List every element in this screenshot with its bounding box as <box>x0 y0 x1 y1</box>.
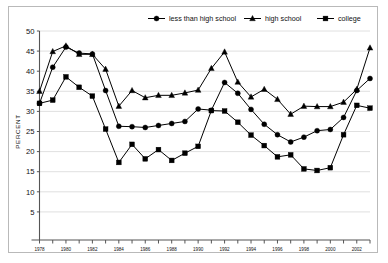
x-axis-tick-label: 1980 <box>61 247 72 252</box>
data-point-circle <box>262 122 267 127</box>
data-point-square <box>183 151 188 156</box>
data-point-triangle <box>261 86 267 91</box>
data-point-circle <box>103 88 108 93</box>
data-point-triangle <box>195 87 201 92</box>
legend-label: high school <box>265 14 302 23</box>
legend-item-less-than-high-school[interactable]: less than high school <box>148 14 237 23</box>
data-point-circle <box>196 106 201 111</box>
legend: less than high schoolhigh schoolcollege <box>148 14 361 23</box>
data-point-circle <box>301 135 306 140</box>
data-point-square <box>156 147 161 152</box>
y-axis-tick-label: 10 <box>26 188 34 197</box>
data-point-circle <box>169 121 174 126</box>
data-point-triangle <box>275 96 281 101</box>
data-point-square <box>103 127 108 132</box>
data-point-square <box>302 166 307 171</box>
x-axis-tick-label: 1990 <box>193 247 204 252</box>
data-point-circle <box>222 80 227 85</box>
data-point-square <box>328 165 333 170</box>
series-line <box>40 46 371 114</box>
data-point-circle <box>154 16 159 21</box>
data-point-square <box>37 101 42 106</box>
data-point-circle <box>156 123 161 128</box>
y-axis-tick-label: 25 <box>26 127 34 136</box>
y-axis-tick-label: 5 <box>30 208 34 217</box>
line-chart: 5101520253035404550PERCENT19781980198219… <box>0 0 388 263</box>
series-group <box>37 43 373 173</box>
legend-label: less than high school <box>169 14 237 23</box>
y-axis: 5101520253035404550 <box>26 27 39 240</box>
data-point-square <box>90 94 95 99</box>
data-point-square <box>50 98 55 103</box>
chart-figure: 5101520253035404550PERCENT19781980198219… <box>0 0 388 263</box>
data-point-circle <box>116 124 121 129</box>
data-point-circle <box>249 107 254 112</box>
data-point-square <box>143 156 148 161</box>
data-point-circle <box>315 128 320 133</box>
data-point-square <box>249 133 254 138</box>
x-axis-tick-label: 1988 <box>167 247 178 252</box>
data-point-circle <box>235 91 240 96</box>
x-axis-tick-label: 1986 <box>140 247 151 252</box>
data-point-square <box>116 160 121 165</box>
x-axis-tick-label: 2002 <box>352 247 363 252</box>
data-point-square <box>368 106 373 111</box>
data-point-circle <box>275 132 280 137</box>
x-axis-tick-label: 1998 <box>299 247 310 252</box>
x-axis-tick-label: 1996 <box>272 247 283 252</box>
legend-label: college <box>338 14 361 23</box>
y-axis-tick-label: 15 <box>26 167 34 176</box>
data-point-square <box>262 143 267 148</box>
gridlines <box>40 31 371 212</box>
x-axis-tick-label: 1982 <box>87 247 98 252</box>
data-point-circle <box>50 65 55 70</box>
y-axis-tick-label: 40 <box>26 67 34 76</box>
data-point-circle <box>130 124 135 129</box>
x-axis: 1978198019821984198619881990199219941996… <box>32 240 371 252</box>
legend-item-high-school[interactable]: high school <box>244 14 302 23</box>
data-point-square <box>209 108 214 113</box>
data-point-circle <box>368 76 373 81</box>
x-axis-tick-label: 1992 <box>219 247 230 252</box>
data-point-triangle <box>235 79 241 84</box>
y-axis-tick-label: 30 <box>26 107 34 116</box>
data-point-square <box>222 109 227 114</box>
series-line <box>40 77 371 171</box>
data-point-circle <box>182 119 187 124</box>
data-point-square <box>130 142 135 147</box>
data-point-square <box>77 85 82 90</box>
data-point-square <box>288 152 293 157</box>
data-point-square <box>235 120 240 125</box>
series-college <box>37 74 372 172</box>
y-axis-tick-label: 20 <box>26 147 34 156</box>
y-axis-tick-label: 50 <box>26 27 34 36</box>
y-axis-tick-label: 45 <box>26 47 34 56</box>
data-point-square <box>341 132 346 137</box>
data-point-square <box>196 144 201 149</box>
data-point-circle <box>341 115 346 120</box>
data-point-triangle <box>367 45 373 50</box>
x-axis-tick-label: 1978 <box>34 247 45 252</box>
data-point-triangle <box>129 87 135 92</box>
series-high-school <box>37 43 373 117</box>
legend-item-college[interactable]: college <box>317 14 361 23</box>
data-point-square <box>169 158 174 163</box>
data-point-circle <box>328 127 333 132</box>
x-axis-tick-label: 1984 <box>114 247 125 252</box>
data-point-square <box>275 154 280 159</box>
y-axis-tick-label: 35 <box>26 87 34 96</box>
data-point-square <box>64 74 69 79</box>
data-point-square <box>315 168 320 173</box>
data-point-square <box>354 103 359 108</box>
data-point-circle <box>143 125 148 130</box>
y-axis-title: PERCENT <box>14 114 21 148</box>
data-point-square <box>323 16 328 21</box>
data-point-circle <box>288 139 293 144</box>
x-axis-tick-label: 2000 <box>325 247 336 252</box>
x-axis-tick-label: 1994 <box>246 247 257 252</box>
